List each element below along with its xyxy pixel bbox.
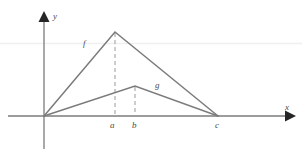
- curve-label-f: f: [83, 39, 86, 48]
- plot-canvas: [0, 0, 302, 153]
- curve-g: [44, 86, 218, 116]
- x-axis-label: x: [285, 103, 289, 112]
- x-tick-label-b: b: [132, 121, 137, 130]
- graph-figure: y x a b c f g: [0, 0, 302, 153]
- y-axis-label: y: [53, 12, 57, 21]
- x-tick-label-c: c: [215, 121, 219, 130]
- x-tick-label-a: a: [110, 121, 115, 130]
- x-axis-arrowhead: [285, 111, 296, 122]
- y-axis-arrowhead: [39, 11, 50, 22]
- curve-label-g: g: [155, 81, 160, 90]
- curve-f: [44, 32, 218, 116]
